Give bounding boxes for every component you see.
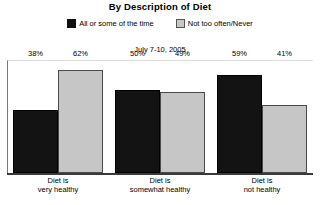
bar-wrap-not-healthy-dark: 59%	[217, 60, 262, 173]
bar-wrap-not-healthy-light: 41%	[262, 60, 307, 173]
category-line1-very-healthy: Diet is	[48, 176, 69, 185]
bar-value-very-healthy-dark: 38%	[13, 49, 58, 58]
bar-group-very-healthy: 38% 62%	[13, 60, 103, 173]
chart-container: By Description of Diet All or some of th…	[0, 0, 320, 205]
bar-groups: 38% 62% 50% 49% 59% 41%	[7, 60, 313, 173]
category-label-very-healthy: Diet is very healthy	[10, 176, 106, 194]
bar-somewhat-healthy-not-too-often	[160, 92, 205, 173]
bar-not-healthy-all-or-some	[217, 75, 262, 173]
bar-wrap-very-healthy-dark: 38%	[13, 60, 58, 173]
legend-item-not-too-often: Not too often/Never	[176, 19, 253, 28]
category-line1-somewhat-healthy: Diet is	[150, 176, 171, 185]
category-line1-not-healthy: Diet is	[252, 176, 273, 185]
bar-wrap-very-healthy-light: 62%	[58, 60, 103, 173]
category-label-somewhat-healthy: Diet is somewhat healthy	[112, 176, 208, 194]
legend-swatch-light-icon	[176, 19, 185, 28]
category-label-not-healthy: Diet is not healthy	[214, 176, 310, 194]
legend-item-all-or-some: All or some of the time	[67, 19, 154, 28]
legend-label-all-or-some: All or some of the time	[79, 19, 154, 28]
bar-somewhat-healthy-all-or-some	[115, 90, 160, 173]
category-line2-not-healthy: not healthy	[214, 185, 310, 194]
chart-legend: All or some of the time Not too often/Ne…	[0, 19, 320, 28]
legend-swatch-dark-icon	[67, 19, 76, 28]
bar-value-very-healthy-light: 62%	[58, 49, 103, 58]
legend-label-not-too-often: Not too often/Never	[188, 19, 253, 28]
bar-wrap-somewhat-healthy-light: 49%	[160, 60, 205, 173]
bar-group-not-healthy: 59% 41%	[217, 60, 307, 173]
bar-group-somewhat-healthy: 50% 49%	[115, 60, 205, 173]
bar-value-not-healthy-dark: 59%	[217, 49, 262, 58]
bar-very-healthy-not-too-often	[58, 70, 103, 173]
bar-very-healthy-all-or-some	[13, 110, 58, 173]
bar-wrap-somewhat-healthy-dark: 50%	[115, 60, 160, 173]
axis-baseline	[7, 173, 313, 175]
bar-value-somewhat-healthy-light: 49%	[160, 49, 205, 58]
bar-not-healthy-not-too-often	[262, 105, 307, 173]
bar-value-not-healthy-light: 41%	[262, 49, 307, 58]
chart-title: By Description of Diet	[0, 1, 320, 12]
category-line2-somewhat-healthy: somewhat healthy	[112, 185, 208, 194]
category-labels: Diet is very healthy Diet is somewhat he…	[7, 176, 313, 194]
bar-value-somewhat-healthy-dark: 50%	[115, 49, 160, 58]
category-line2-very-healthy: very healthy	[10, 185, 106, 194]
